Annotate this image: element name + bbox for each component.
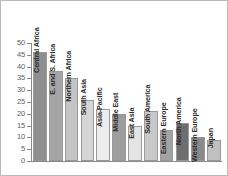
bar[interactable]: Japan — [207, 140, 221, 161]
y-axis-tick — [27, 137, 32, 138]
y-axis-tick — [27, 90, 32, 91]
bar-chart-figure: 05101520253035404550 Central AfricaE. an… — [0, 0, 228, 176]
bar-category-label: Japan — [207, 128, 214, 148]
bar[interactable]: Eastern Europe — [160, 130, 174, 161]
bar-category-label: East Asia — [128, 108, 135, 139]
y-axis-tick-label: 15 — [1, 122, 25, 130]
bar-category-label: South Asia — [80, 80, 87, 116]
bar[interactable]: South Asia — [81, 100, 95, 161]
y-axis-tick-label: 5 — [1, 145, 25, 153]
y-axis-tick — [27, 149, 32, 150]
bar[interactable]: Middle East — [112, 114, 126, 161]
bar[interactable]: East Asia — [128, 126, 142, 161]
y-axis-tick-label: 30 — [1, 86, 25, 94]
y-axis-tick — [27, 102, 32, 103]
bar[interactable]: E. and S. Africa — [49, 71, 63, 161]
y-axis-tick-label: 50 — [1, 39, 25, 47]
y-axis-tick-label: 25 — [1, 98, 25, 106]
bar-category-label: Central Africa — [33, 28, 40, 73]
bar[interactable]: South America — [144, 111, 158, 161]
plot-area: 05101520253035404550 Central AfricaE. an… — [1, 1, 228, 176]
y-axis-tick-label: 40 — [1, 63, 25, 71]
bar-category-label: South America — [144, 85, 151, 134]
y-axis-tick — [27, 126, 32, 127]
bar-category-label: Eastern Europe — [159, 102, 166, 154]
bar-category-label: North America — [175, 97, 182, 145]
bar-category-label: E. and S. Africa — [49, 44, 56, 95]
bar-category-label: Northern Africa — [64, 51, 71, 102]
bar[interactable]: Northern Africa — [65, 78, 79, 161]
bar-category-label: Asia-Pacific — [96, 87, 103, 127]
y-axis-tick-label: 10 — [1, 133, 25, 141]
y-axis-tick-label: 0 — [1, 157, 25, 165]
bar[interactable]: Asia-Pacific — [96, 109, 110, 161]
y-axis-tick-label: 45 — [1, 51, 25, 59]
bar-category-label: Middle East — [112, 92, 119, 131]
y-axis-tick — [27, 161, 32, 162]
y-axis-tick — [27, 78, 32, 79]
bar[interactable]: North America — [176, 123, 190, 161]
bar[interactable]: Central Africa — [33, 52, 47, 161]
bar[interactable]: Western Europe — [191, 137, 205, 161]
y-axis-tick — [27, 114, 32, 115]
bar-category-label: Western Europe — [191, 109, 198, 163]
y-axis-tick-label: 35 — [1, 74, 25, 82]
y-axis-tick-label: 20 — [1, 110, 25, 118]
